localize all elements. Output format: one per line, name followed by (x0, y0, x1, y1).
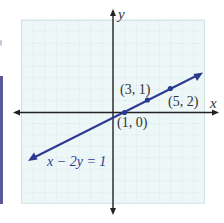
point-5-2 (168, 86, 173, 91)
point-label-3-1: (3, 1) (120, 83, 150, 97)
point-label-5-2: (5, 2) (168, 95, 198, 109)
coordinate-plane (0, 0, 224, 223)
x-axis-left-arrow-icon (13, 110, 20, 116)
point-3-1 (145, 97, 150, 102)
y-axis-down-arrow-icon (110, 208, 116, 215)
y-axis-label: y (118, 7, 125, 22)
point-label-1-0: (1, 0) (117, 116, 147, 130)
equation-label: x − 2y = 1 (47, 155, 106, 169)
x-axis-label: x (210, 96, 217, 111)
y-axis-up-arrow-icon (110, 9, 116, 16)
